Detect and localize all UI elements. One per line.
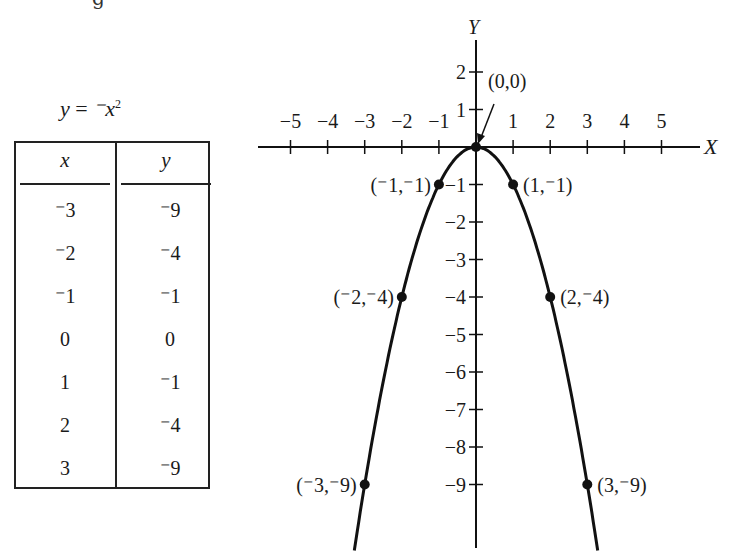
point-label: (3,⁻9) <box>597 474 646 497</box>
y-tick-label: −5 <box>445 324 466 346</box>
data-point <box>582 480 592 490</box>
x-tick-label: 1 <box>508 110 518 132</box>
x-tick-label: 3 <box>582 110 592 132</box>
data-point <box>397 292 407 302</box>
point-label: (⁻1,⁻1) <box>371 174 431 197</box>
point-label: (2,⁻4) <box>560 286 609 309</box>
data-point <box>545 292 555 302</box>
point-label: (0,0) <box>488 70 526 93</box>
y-tick-label: −4 <box>445 286 466 308</box>
point-label: (⁻2,⁻4) <box>333 286 393 309</box>
y-tick-label: −6 <box>445 361 466 383</box>
y-tick-label: 1 <box>456 99 466 121</box>
point-label: (1,⁻1) <box>523 174 572 197</box>
x-axis-label: X <box>703 134 719 159</box>
y-tick-label: −1 <box>445 174 466 196</box>
data-point <box>434 180 444 190</box>
x-tick-label: 4 <box>619 110 629 132</box>
data-point <box>471 142 481 152</box>
x-tick-label: −4 <box>317 110 338 132</box>
y-tick-label: −8 <box>445 436 466 458</box>
x-tick-label: 5 <box>657 110 667 132</box>
point-label: (⁻3,⁻9) <box>296 474 356 497</box>
data-point <box>360 480 370 490</box>
y-tick-label: −9 <box>445 474 466 496</box>
origin-arrow-head-icon <box>477 133 485 144</box>
y-tick-label: −3 <box>445 249 466 271</box>
x-tick-label: −3 <box>354 110 375 132</box>
y-tick-label: −7 <box>445 399 466 421</box>
y-tick-label: −2 <box>445 211 466 233</box>
parabola-chart: XY−5−4−3−2−11234521−1−2−3−4−5−6−7−8−9(0,… <box>0 0 742 557</box>
x-tick-label: −1 <box>428 110 449 132</box>
y-axis-label: Y <box>468 16 481 38</box>
y-tick-label: 2 <box>456 61 466 83</box>
x-tick-label: −2 <box>391 110 412 132</box>
x-tick-label: −5 <box>280 110 301 132</box>
data-point <box>508 180 518 190</box>
x-tick-label: 2 <box>545 110 555 132</box>
